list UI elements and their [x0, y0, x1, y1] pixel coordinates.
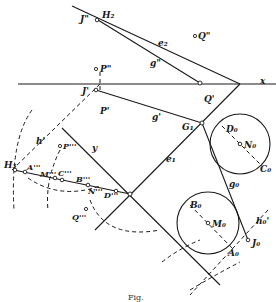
label-J1: J' [80, 86, 89, 96]
arc-6 [190, 262, 240, 290]
label-N0: N₀ [243, 140, 256, 150]
point-Q3 [84, 207, 87, 210]
line-g-prime [96, 90, 202, 123]
label-Q1: Q' [204, 94, 215, 104]
label-h0: h₀' [256, 216, 269, 226]
label-C0: C₀ [260, 164, 271, 174]
arc-2 [48, 150, 61, 210]
line-g-double-prime [98, 20, 200, 83]
label-M0: M₀ [211, 219, 226, 229]
label-D3: D''' [103, 190, 118, 200]
label-Q2: Q" [198, 31, 211, 41]
point-g2-end [198, 81, 202, 85]
figure-caption: Fig. [128, 293, 144, 302]
descriptive-geometry-diagram: J" H₂ e₂ Q" g" P" x J' Q' P' g' G₁ D₀ N₀… [0, 0, 276, 302]
point-J0 [246, 238, 250, 242]
label-g0: g₀ [229, 179, 239, 189]
label-y: y [91, 143, 98, 153]
label-e1: e₁ [166, 154, 176, 164]
trace-e2 [72, 6, 240, 84]
label-C3: C''' [58, 168, 72, 178]
label-h1: h' [36, 136, 45, 146]
point-J2 [95, 18, 99, 22]
label-A0: A₀ [227, 248, 239, 258]
label-P2: P" [99, 64, 111, 74]
point-M0 [206, 221, 210, 225]
label-Q3: Q''' [72, 212, 86, 222]
label-g1: g' [152, 112, 161, 122]
point-D3-end [128, 192, 132, 196]
trace-e1-lower [95, 195, 130, 230]
label-H3: H₃ [3, 160, 17, 170]
point-Q2 [193, 34, 196, 37]
point-G1 [200, 121, 204, 125]
point-N0 [238, 142, 242, 146]
label-x: x [259, 76, 266, 86]
point-P3 [58, 144, 61, 147]
label-P3: P''' [62, 141, 76, 151]
label-g2: g" [150, 58, 161, 68]
label-G1: G₁ [182, 122, 194, 132]
label-H2: H₂ [101, 10, 115, 20]
label-P1: P' [99, 106, 110, 116]
label-M3: M''' [39, 169, 56, 179]
label-N3: N''' [87, 186, 103, 196]
label-A3: A''' [26, 162, 41, 172]
label-J0: J₀ [250, 238, 260, 248]
label-J2: J" [78, 14, 89, 24]
arc-4 [90, 200, 160, 232]
label-D0: D₀ [225, 124, 238, 134]
label-e2: e₂ [158, 38, 168, 48]
label-B0: B₀ [189, 200, 202, 210]
line-h-prime [10, 84, 100, 172]
point-P2 [94, 67, 97, 70]
point-C3 [60, 178, 64, 182]
label-B3: B''' [75, 174, 90, 184]
point-J1 [94, 88, 98, 92]
